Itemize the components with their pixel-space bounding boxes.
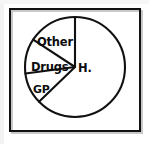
slice-label-other: Other <box>37 35 73 49</box>
slice-label-hospital: H. <box>78 61 92 75</box>
pie-chart-svg: Other Drugs GP H. <box>0 0 149 144</box>
slice-label-drugs: Drugs <box>31 60 69 74</box>
slice-label-gp: GP <box>33 83 50 96</box>
figure-container: Other Drugs GP H. <box>0 0 149 144</box>
